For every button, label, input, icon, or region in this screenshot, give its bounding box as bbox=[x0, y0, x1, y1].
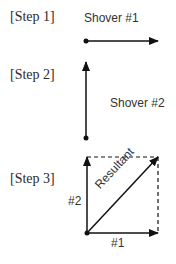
step3-label: [Step 3] bbox=[10, 171, 55, 187]
shover2-label: Shover #2 bbox=[110, 96, 165, 110]
vector2-label: #2 bbox=[68, 194, 81, 208]
step2-label: [Step 2] bbox=[10, 67, 55, 83]
shover1-label: Shover #1 bbox=[84, 11, 139, 25]
step1-label: [Step 1] bbox=[10, 9, 55, 25]
step2-vector bbox=[84, 62, 89, 141]
step1-vector bbox=[84, 39, 159, 44]
vector-diagram bbox=[0, 0, 176, 264]
vector1-label: #1 bbox=[111, 236, 124, 250]
